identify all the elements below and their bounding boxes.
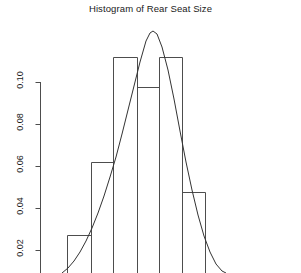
histogram-bar xyxy=(114,58,138,273)
density-curve xyxy=(62,31,226,273)
histogram-bar xyxy=(160,58,183,273)
histogram-bar xyxy=(92,163,114,273)
histogram-bar xyxy=(138,88,160,273)
histogram-bars xyxy=(68,58,206,273)
histogram-bar xyxy=(183,193,206,273)
normal-density-curve xyxy=(62,31,226,273)
y-axis xyxy=(36,82,41,273)
histogram-bar xyxy=(68,236,92,273)
plot-canvas xyxy=(0,0,301,273)
histogram-plot: Histogram of Rear Seat Size 0.10 0.08 0.… xyxy=(0,0,301,273)
